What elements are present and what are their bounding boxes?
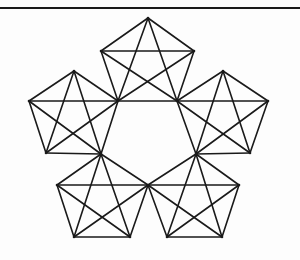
cell-2-diagonal [177, 101, 250, 153]
cell-1-edge [46, 153, 101, 154]
cell-1-diagonal [46, 71, 74, 153]
cell-2-edge [177, 71, 223, 101]
cell-3-diagonal [74, 154, 101, 237]
cell-4-edge [148, 154, 196, 185]
cell-0-diagonal [101, 51, 177, 101]
cell-2-edge [177, 101, 196, 154]
cell-3-edge [57, 185, 74, 237]
vertex-B1 [193, 50, 196, 53]
cell-1-edge [29, 71, 74, 101]
vertex-I4 [147, 184, 150, 187]
vertex-L [28, 100, 31, 103]
cell-1-diagonal [74, 71, 101, 154]
vertex-I3 [195, 153, 198, 156]
vertex-E1 [129, 236, 132, 239]
cell-0-diagonal [118, 18, 148, 101]
vertex-T [147, 17, 150, 20]
vertex-I5 [100, 153, 103, 156]
vertex-C2 [56, 184, 59, 187]
cell-4-diagonal [167, 154, 196, 237]
cell-4-diagonal [196, 154, 222, 237]
cell-1-edge [101, 101, 118, 154]
vertex-B2 [222, 70, 225, 73]
pentagon-pentagram-diagram [0, 0, 300, 260]
vertex-A2 [73, 70, 76, 73]
vertex-D2 [238, 184, 241, 187]
cell-3-diagonal [74, 185, 148, 237]
vertex-I1 [117, 100, 120, 103]
cell-0-diagonal [118, 51, 194, 101]
cell-0-edge [101, 51, 118, 101]
cell-2-edge [223, 71, 268, 101]
cell-1-diagonal [29, 101, 101, 154]
vertex-C1 [45, 152, 48, 155]
vertex-I2 [176, 100, 179, 103]
cell-0-edge [148, 18, 194, 51]
vertex-BR [221, 236, 224, 239]
cell-1-edge [74, 71, 118, 101]
vertex-E2 [166, 236, 169, 239]
cell-2-edge [250, 101, 268, 153]
cell-3-edge [130, 185, 148, 237]
cell-2-diagonal [196, 71, 223, 154]
cell-2-diagonal [223, 71, 250, 153]
vertex-BL [73, 236, 76, 239]
cell-3-diagonal [101, 154, 130, 237]
cell-4-edge [196, 154, 239, 185]
vertex-A1 [100, 50, 103, 53]
cell-4-edge [222, 185, 239, 237]
cell-2-edge [196, 153, 250, 154]
cell-3-diagonal [57, 185, 130, 237]
cell-0-diagonal [148, 18, 177, 101]
cell-4-diagonal [148, 185, 222, 237]
cell-4-diagonal [167, 185, 239, 237]
cell-0-edge [101, 18, 148, 51]
cell-3-edge [57, 154, 101, 185]
cell-2-diagonal [196, 101, 268, 154]
cell-1-diagonal [46, 101, 118, 153]
cell-3-edge [101, 154, 148, 185]
vertex-D1 [249, 152, 252, 155]
cell-1-edge [29, 101, 46, 153]
cell-0-edge [177, 51, 194, 101]
vertex-R [267, 100, 270, 103]
cell-4-edge [148, 185, 167, 237]
